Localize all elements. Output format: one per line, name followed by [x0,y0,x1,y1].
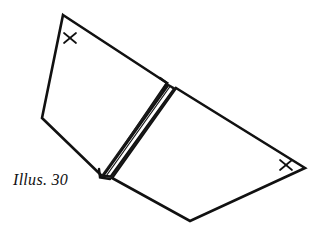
line-drawing-canvas [0,0,321,239]
figure-caption: Illus. 30 [13,170,68,190]
illustration-figure: Illus. 30 [0,0,321,239]
